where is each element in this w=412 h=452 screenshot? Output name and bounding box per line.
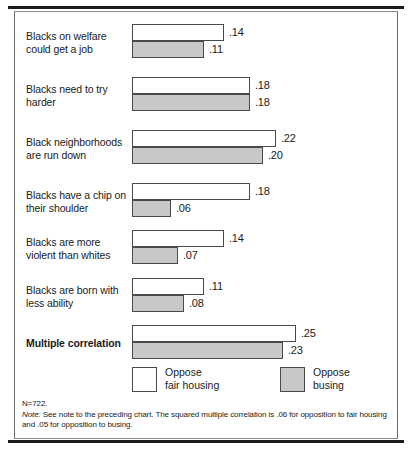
row-label: Blacks need to tryharder: [26, 83, 130, 108]
legend-label-oppose-busing: Oppose busing: [313, 366, 350, 391]
footnote-text: See note to the preceding chart. The squ…: [22, 410, 387, 429]
bar-oppose-fair-housing: [132, 24, 224, 41]
row-label-line2: less ability: [26, 297, 130, 310]
bar-value-oppose-busing: .18: [255, 96, 270, 108]
row-label: Blacks are moreviolent than whites: [26, 236, 130, 261]
bar-value-oppose-busing: .08: [189, 297, 204, 309]
row-label-line1: Blacks have a chip on: [26, 189, 130, 202]
footnote-note: Note: See note to the preceding chart. T…: [22, 410, 390, 430]
bar-oppose-busing: [132, 342, 283, 359]
sample-size-note: N=722.: [22, 399, 47, 408]
legend-label-line2: fair housing: [165, 379, 219, 392]
row-label-line2: are run down: [26, 149, 130, 162]
row-label-line1: Blacks are born with: [26, 284, 130, 297]
bar-oppose-fair-housing: [132, 278, 204, 295]
row-label: Multiple correlation: [26, 337, 130, 350]
bar-oppose-busing: [132, 295, 184, 312]
row-label-line1: Multiple correlation: [26, 337, 130, 350]
bar-value-oppose-busing: .20: [268, 149, 283, 161]
row-label-line1: Blacks are more: [26, 236, 130, 249]
bar-value-oppose-busing: .23: [288, 344, 303, 356]
bar-oppose-busing: [132, 247, 178, 264]
bar-oppose-busing: [132, 94, 250, 111]
bar-oppose-fair-housing: [132, 183, 250, 200]
bar-oppose-busing: [132, 41, 204, 58]
row-label: Blacks are born withless ability: [26, 284, 130, 309]
row-label-line1: Blacks on welfare: [26, 30, 130, 43]
bar-value-oppose-busing: .07: [183, 249, 198, 261]
bar-value-oppose-fair-housing: .11: [209, 280, 223, 292]
bar-oppose-fair-housing: [132, 77, 250, 94]
legend-label-line1: Oppose: [165, 366, 219, 379]
bar-value-oppose-busing: .06: [176, 202, 191, 214]
row-label-line2: their shoulder: [26, 202, 130, 215]
legend-label-line2: busing: [313, 379, 350, 392]
row-label: Black neighborhoodsare run down: [26, 136, 130, 161]
row-label-line2: could get a job: [26, 43, 130, 56]
bar-oppose-fair-housing: [132, 230, 224, 247]
bar-value-oppose-fair-housing: .18: [255, 79, 270, 91]
bar-oppose-busing: [132, 147, 263, 164]
bar-value-oppose-fair-housing: .14: [229, 232, 244, 244]
bar-oppose-busing: [132, 200, 171, 217]
footnote-label: Note:: [22, 410, 41, 419]
row-label-line1: Black neighborhoods: [26, 136, 130, 149]
row-label-line2: harder: [26, 96, 130, 109]
row-label-line1: Blacks need to try: [26, 83, 130, 96]
legend-label-line1: Oppose: [313, 366, 350, 379]
row-label-line2: violent than whites: [26, 249, 130, 262]
bar-value-oppose-fair-housing: .14: [229, 26, 244, 38]
bar-value-oppose-busing: .11: [209, 43, 223, 55]
bar-oppose-fair-housing: [132, 325, 296, 342]
bar-oppose-fair-housing: [132, 130, 276, 147]
row-label: Blacks on welfarecould get a job: [26, 30, 130, 55]
legend-swatch-white-icon: [132, 367, 157, 392]
legend-label-oppose-fair-housing: Oppose fair housing: [165, 366, 219, 391]
row-label: Blacks have a chip ontheir shoulder: [26, 189, 130, 214]
legend-swatch-gray-icon: [280, 367, 305, 392]
bar-value-oppose-fair-housing: .25: [301, 327, 316, 339]
chart-figure: Blacks on welfarecould get a job.14.11Bl…: [0, 0, 412, 452]
bar-value-oppose-fair-housing: .18: [255, 185, 270, 197]
bar-value-oppose-fair-housing: .22: [281, 132, 296, 144]
